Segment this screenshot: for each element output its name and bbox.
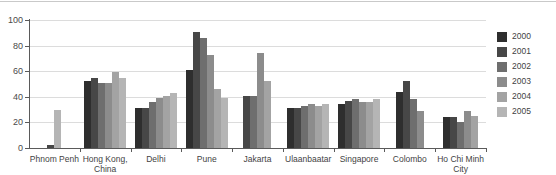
bar: [464, 111, 471, 148]
x-tick-mark: [232, 148, 233, 152]
bar: [47, 145, 54, 148]
bar: [243, 96, 250, 148]
bar: [366, 102, 373, 148]
bar: [91, 78, 98, 148]
legend-swatch-icon: [497, 77, 507, 87]
bar: [193, 32, 200, 148]
y-tick-label: 40: [0, 93, 23, 102]
bar: [322, 104, 329, 148]
bar: [163, 96, 170, 148]
bar: [443, 117, 450, 148]
bar: [84, 81, 91, 148]
legend-label: 2005: [512, 107, 531, 116]
bar: [149, 102, 156, 148]
legend-label: 2000: [512, 32, 531, 41]
bar: [373, 99, 380, 148]
bar-group: [283, 20, 334, 148]
legend-label: 2001: [512, 47, 531, 56]
x-tick-mark: [384, 148, 385, 152]
bar: [315, 106, 322, 148]
legend-item[interactable]: 2003: [497, 75, 555, 88]
y-tick-mark: [25, 148, 30, 149]
legend-label: 2003: [512, 77, 531, 86]
bar: [105, 83, 112, 148]
bar-group: [181, 20, 232, 148]
legend-swatch-icon: [497, 107, 507, 117]
legend-item[interactable]: 2001: [497, 45, 555, 58]
bar: [135, 108, 142, 148]
bar-group: [435, 20, 486, 148]
y-tick-label: 0: [0, 144, 23, 153]
bar: [142, 108, 149, 148]
bar-group: [29, 20, 80, 148]
bar: [186, 70, 193, 148]
bar-group: [131, 20, 182, 148]
bar: [264, 81, 271, 148]
bar: [301, 106, 308, 148]
bar: [221, 98, 228, 148]
legend-label: 2002: [512, 62, 531, 71]
x-tick-mark: [181, 148, 182, 152]
y-tick-label: 80: [0, 42, 23, 51]
bar: [200, 38, 207, 148]
legend-swatch-icon: [497, 32, 507, 42]
x-tick-mark: [283, 148, 284, 152]
bar: [308, 104, 315, 148]
chart-legend: 200020012002200320042005: [497, 30, 555, 120]
bar-group: [232, 20, 283, 148]
bar: [417, 111, 424, 148]
legend-swatch-icon: [497, 62, 507, 72]
bar: [345, 101, 352, 148]
bar: [287, 108, 294, 148]
bar: [250, 96, 257, 148]
bar: [471, 116, 478, 148]
bar: [338, 104, 345, 148]
bar: [294, 108, 301, 148]
bar: [450, 117, 457, 148]
legend-item[interactable]: 2005: [497, 105, 555, 118]
top-divider: [0, 1, 556, 2]
bar: [214, 89, 221, 148]
bar-group: [384, 20, 435, 148]
legend-item[interactable]: 2004: [497, 90, 555, 103]
bar-chart: 020406080100 Phnom PenhHong Kong, ChinaD…: [0, 0, 556, 175]
bar: [352, 99, 359, 148]
legend-swatch-icon: [497, 47, 507, 57]
bar: [396, 92, 403, 148]
bar: [410, 99, 417, 148]
bar: [119, 78, 126, 148]
bar: [403, 81, 410, 148]
bar: [359, 102, 366, 148]
legend-item[interactable]: 2000: [497, 30, 555, 43]
bar: [112, 72, 119, 148]
x-tick-mark: [486, 148, 487, 152]
x-tick-mark: [131, 148, 132, 152]
x-tick-mark: [80, 148, 81, 152]
bar-group: [334, 20, 385, 148]
bar: [257, 53, 264, 148]
legend-label: 2004: [512, 92, 531, 101]
bar: [54, 110, 61, 148]
category-label: Ho Chi Minh City: [429, 155, 492, 174]
bar-groups: [29, 20, 486, 148]
y-tick-label: 100: [0, 16, 23, 25]
x-tick-mark: [334, 148, 335, 152]
bar: [98, 83, 105, 148]
bar: [457, 122, 464, 148]
y-tick-label: 60: [0, 67, 23, 76]
bar: [156, 98, 163, 148]
legend-swatch-icon: [497, 92, 507, 102]
y-tick-label: 20: [0, 118, 23, 127]
bar: [170, 93, 177, 148]
bar: [207, 55, 214, 148]
legend-item[interactable]: 2002: [497, 60, 555, 73]
x-axis-line: [29, 148, 486, 149]
bar-group: [80, 20, 131, 148]
x-tick-mark: [435, 148, 436, 152]
